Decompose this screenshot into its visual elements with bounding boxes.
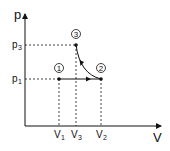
point-label-3: 3	[72, 30, 81, 40]
svg-text:3: 3	[74, 30, 79, 39]
guide-lines	[25, 45, 101, 126]
svg-text:1: 1	[18, 78, 22, 85]
point-label-2: 2	[97, 64, 106, 74]
point-1	[57, 77, 61, 81]
x-tick-v2: V 2	[96, 129, 107, 141]
svg-text:2: 2	[99, 64, 104, 73]
y-axis-label: p	[14, 7, 21, 22]
pv-diagram: p V 1 2 3 p 3 p 1 V 1 V	[0, 0, 170, 151]
point-label-1: 1	[55, 64, 64, 74]
svg-text:1: 1	[57, 64, 62, 73]
arrow-2-3-icon	[80, 60, 85, 66]
svg-text:3: 3	[18, 44, 22, 51]
svg-text:V: V	[96, 129, 103, 140]
svg-text:V: V	[54, 129, 61, 140]
y-tick-p1: p 1	[12, 73, 22, 85]
y-tick-p3: p 3	[12, 39, 22, 51]
svg-text:V: V	[71, 129, 78, 140]
x-tick-v3: V 3	[71, 129, 82, 141]
arrow-1-2-icon	[86, 77, 91, 82]
svg-text:2: 2	[103, 134, 107, 141]
point-2	[99, 77, 103, 81]
point-3	[74, 43, 78, 47]
svg-text:3: 3	[78, 134, 82, 141]
x-axis-label: V	[153, 130, 162, 145]
x-tick-v1: V 1	[54, 129, 65, 141]
svg-text:1: 1	[61, 134, 65, 141]
process-2-3	[76, 45, 101, 79]
